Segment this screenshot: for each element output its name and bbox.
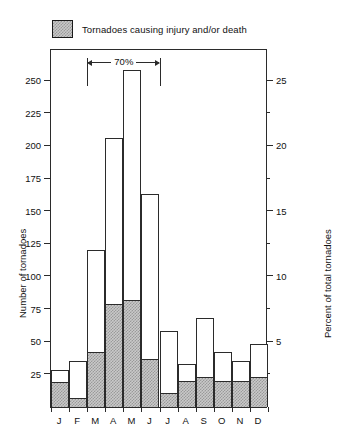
bar-injury-death — [214, 381, 232, 407]
y-tick-label-right: 10 — [276, 272, 287, 282]
span-arrow-right-icon — [155, 60, 160, 66]
bar-injury-death — [87, 352, 105, 407]
x-axis-label-d-11: D — [249, 415, 267, 426]
span-tick-left — [87, 58, 88, 86]
bar-injury-death — [250, 377, 268, 407]
y-tick-left — [44, 243, 51, 244]
y-tick-label-left: 150 — [25, 207, 41, 217]
x-axis-label-s-8: S — [195, 415, 213, 426]
y-tick-right — [266, 145, 273, 146]
y-tick-label-left: 250 — [25, 76, 41, 86]
span-arrow-left-icon — [87, 60, 92, 66]
x-axis-label-o-9: O — [213, 415, 231, 426]
y-tick-left — [44, 341, 51, 342]
y-tick-left — [44, 373, 51, 374]
span-line — [87, 62, 159, 63]
bar-injury-death — [123, 300, 141, 407]
y-axis-title-right: Percent of total tornadoes — [322, 229, 333, 338]
bar-injury-death — [232, 381, 250, 407]
x-axis-label-j-6: J — [159, 415, 177, 426]
legend-label: Tornadoes causing injury and/or death — [82, 24, 247, 35]
hatched-swatch-icon — [52, 20, 73, 38]
bar-injury-death — [178, 381, 196, 407]
x-tick — [250, 407, 251, 412]
y-tick-right — [266, 275, 273, 276]
x-axis-label-a-7: A — [177, 415, 195, 426]
y-tick-left — [44, 145, 51, 146]
x-tick — [51, 407, 52, 412]
y-tick-label-right: 20 — [276, 141, 287, 151]
x-axis-label-a-3: A — [104, 415, 122, 426]
x-tick — [87, 407, 88, 412]
bar-injury-death — [51, 382, 69, 407]
plot-area: 25507510012515017520022525051015202570% — [50, 49, 267, 408]
chart-page: Tornadoes causing injury and/or death Nu… — [0, 0, 338, 443]
y-minor-tick-right — [266, 308, 270, 309]
y-tick-right — [266, 341, 273, 342]
y-tick-label-left: 100 — [25, 272, 41, 282]
y-tick-left — [44, 210, 51, 211]
y-tick-label-left: 225 — [25, 109, 41, 119]
y-tick-left — [44, 178, 51, 179]
x-axis-label-f-1: F — [68, 415, 86, 426]
x-tick — [232, 407, 233, 412]
x-tick — [214, 407, 215, 412]
y-tick-label-right: 5 — [276, 337, 281, 347]
x-tick — [141, 407, 142, 412]
y-tick-label-left: 25 — [30, 370, 41, 380]
bar-injury-death — [105, 304, 123, 407]
bar-injury-death — [196, 377, 214, 407]
y-tick-label-left: 50 — [30, 337, 41, 347]
x-tick — [123, 407, 124, 412]
y-tick-left — [44, 112, 51, 113]
bar-injury-death — [160, 393, 178, 407]
x-tick — [69, 407, 70, 412]
x-axis-label-j-5: J — [140, 415, 158, 426]
x-axis-label-m-2: M — [86, 415, 104, 426]
x-axis-label-j-0: J — [50, 415, 68, 426]
y-tick-left — [44, 308, 51, 309]
y-tick-label-left: 125 — [25, 239, 41, 249]
span-tick-right — [160, 58, 161, 86]
y-tick-label-right: 25 — [276, 76, 287, 86]
x-tick — [196, 407, 197, 412]
y-tick-label-left: 200 — [25, 141, 41, 151]
y-minor-tick-right — [266, 178, 270, 179]
y-tick-label-left: 75 — [30, 305, 41, 315]
x-tick — [268, 407, 269, 412]
x-axis-label-n-10: N — [231, 415, 249, 426]
x-axis-label-m-4: M — [122, 415, 140, 426]
x-tick — [105, 407, 106, 412]
bar-injury-death — [69, 398, 87, 407]
y-tick-label-left: 175 — [25, 174, 41, 184]
y-tick-right — [266, 80, 273, 81]
y-tick-left — [44, 80, 51, 81]
span-annotation-label: 70% — [111, 56, 136, 67]
bar-injury-death — [141, 359, 159, 407]
y-tick-right — [266, 210, 273, 211]
y-tick-left — [44, 275, 51, 276]
y-tick-label-right: 15 — [276, 207, 287, 217]
chart-legend: Tornadoes causing injury and/or death — [52, 20, 247, 38]
y-minor-tick-right — [266, 243, 270, 244]
x-tick — [178, 407, 179, 412]
x-tick — [160, 407, 161, 412]
y-minor-tick-right — [266, 112, 270, 113]
